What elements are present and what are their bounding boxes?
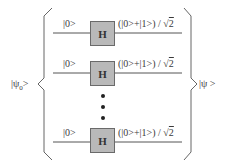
- left-brace: [38, 8, 52, 160]
- right-brace: [184, 8, 197, 160]
- output-state-label: |ψ >: [199, 79, 215, 89]
- ellipsis-dot-3: [101, 116, 105, 120]
- hadamard-gate-2: H: [90, 61, 115, 86]
- qubit-1-output: (|0>+|1>) / √2: [118, 19, 174, 29]
- ellipsis-dot-1: [101, 94, 105, 98]
- input-state-label: |ψ0>: [11, 79, 28, 93]
- qubit-2-input: |0>: [63, 59, 76, 69]
- ellipsis-dot-2: [101, 105, 105, 109]
- qubit-3-input: |0>: [63, 128, 76, 138]
- qubit-2-output: (|0>+|1>) / √2: [118, 59, 174, 69]
- hadamard-gate-3: H: [90, 128, 115, 153]
- hadamard-gate-1: H: [90, 21, 115, 46]
- qubit-1-input: |0>: [63, 19, 76, 29]
- qubit-3-output: (|0>+|1>) / √2: [118, 128, 174, 138]
